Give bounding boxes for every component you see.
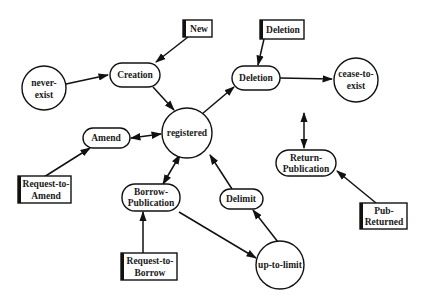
event-new[interactable]: New xyxy=(183,20,212,37)
operation-label: Publication xyxy=(283,164,330,174)
state-up-to-limit[interactable]: up-to-limit xyxy=(256,241,304,289)
event-request-to-amend[interactable]: Request-to- Amend xyxy=(18,176,71,203)
event-label: Deletion xyxy=(266,25,300,35)
event-label: Amend xyxy=(31,191,61,201)
operation-creation[interactable]: Creation xyxy=(110,63,160,87)
operation-label: Publication xyxy=(128,198,175,208)
edge-delimit-to-registered xyxy=(210,155,232,189)
operation-label: Deletion xyxy=(239,73,273,83)
edge-new-to-creation xyxy=(156,37,188,62)
state-label: up-to-limit xyxy=(258,260,303,270)
operation-label: Amend xyxy=(91,133,121,143)
edge-deletion-event-to-deletion xyxy=(258,39,264,65)
edge-up-to-limit-to-delimit xyxy=(253,210,278,242)
edge-creation-to-registered xyxy=(153,87,174,110)
event-label: New xyxy=(190,24,208,34)
operation-amend[interactable]: Amend xyxy=(83,128,130,148)
edge-never-exist-to-creation xyxy=(66,75,108,84)
operation-label: Return- xyxy=(290,153,322,163)
state-never-exist[interactable]: never- exist xyxy=(22,66,66,110)
event-request-to-borrow[interactable]: Request-to- Borrow xyxy=(121,253,177,280)
operation-label: Borrow- xyxy=(134,187,168,197)
event-label: Pub- xyxy=(374,206,394,216)
edge-request-amend-to-amend xyxy=(44,148,90,177)
event-deletion[interactable]: Deletion xyxy=(260,20,304,39)
operation-borrow-publication[interactable]: Borrow- Publication xyxy=(122,184,180,211)
edge-deletion-to-cease xyxy=(280,78,332,79)
edge-amend-registered xyxy=(131,134,161,138)
edge-borrow-to-up-to-limit xyxy=(179,212,256,258)
event-label: Borrow xyxy=(135,268,166,278)
state-label: exist xyxy=(35,90,54,100)
edge-registered-to-deletion xyxy=(202,87,234,114)
event-pub-returned[interactable]: Pub- Returned xyxy=(360,203,407,229)
edge-pub-returned-to-return xyxy=(337,171,376,203)
operation-deletion[interactable]: Deletion xyxy=(232,66,280,90)
operation-label: Creation xyxy=(117,70,153,80)
state-registered[interactable]: registered xyxy=(162,108,212,158)
state-label: cease-to- xyxy=(338,69,373,79)
state-label: never- xyxy=(31,78,57,88)
state-label: exist xyxy=(347,81,366,91)
state-cease-to-exist[interactable]: cease-to- exist xyxy=(334,58,378,102)
state-diagram: never- exist registered cease-to- exist … xyxy=(0,0,426,303)
state-label: registered xyxy=(167,128,208,138)
event-label: Returned xyxy=(365,217,404,227)
operation-delimit[interactable]: Delimit xyxy=(220,189,263,209)
operation-return-publication[interactable]: Return- Publication xyxy=(276,150,336,176)
event-label: Request-to- xyxy=(23,179,70,189)
operation-label: Delimit xyxy=(226,194,257,204)
edge-borrow-registered xyxy=(163,155,180,184)
event-label: Request-to- xyxy=(127,256,174,266)
